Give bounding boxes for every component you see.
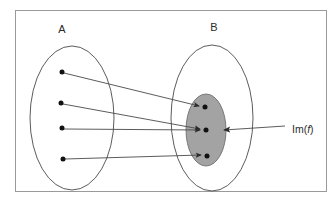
figure-root: A B Im(f): [0, 0, 334, 207]
image-point-1: [203, 105, 208, 110]
image-point-2: [204, 128, 209, 133]
domain-point-4: [61, 157, 66, 162]
set-mapping-diagram: A B Im(f): [0, 0, 334, 207]
im-label-suffix: ): [310, 123, 314, 135]
set-a-label: A: [58, 23, 66, 35]
domain-point-1: [60, 70, 65, 75]
image-of-f-label: Im(f): [292, 123, 314, 135]
domain-point-3: [60, 126, 65, 131]
domain-point-2: [59, 101, 64, 106]
set-a-ellipse: [30, 46, 114, 190]
set-b-label: B: [210, 21, 217, 33]
image-point-3: [205, 154, 210, 159]
im-label-prefix: Im(: [292, 123, 308, 135]
